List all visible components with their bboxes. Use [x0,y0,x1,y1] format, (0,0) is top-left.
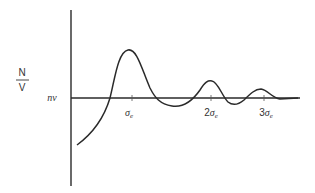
y-label-numerator: N [18,67,25,78]
svg-text:2σe: 2σe [204,107,218,120]
tick-label-3-sigma-e: 3σe [259,107,273,120]
tick-label-sigma-e: σe [125,107,133,120]
diagram-canvas: N V nν σe 2σe 3σe [0,0,315,193]
svg-text:σe: σe [125,107,133,120]
y-label-denominator: V [19,82,26,93]
svg-text:3σe: 3σe [259,107,273,120]
baseline-label: nν [47,92,57,103]
tick-label-2-sigma-e: 2σe [204,107,218,120]
